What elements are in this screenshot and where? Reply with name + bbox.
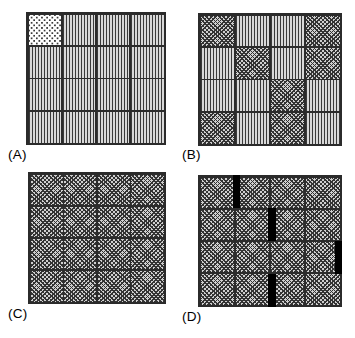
panel-b-grid — [198, 13, 342, 146]
panel-d-cell-r1c4 — [306, 178, 340, 209]
panel-b-cell-r2c2 — [236, 48, 270, 79]
panel-a-cell-r1c2 — [63, 15, 96, 46]
panel-b-cell-r4c4 — [306, 113, 340, 144]
panel-b-cell-r2c4 — [306, 48, 340, 79]
panel-c-cell-r2c1 — [31, 207, 63, 238]
panel-c-cell-r4c2 — [64, 271, 96, 302]
panel-c-cell-r3c1 — [31, 239, 63, 270]
panel-a-cell-r2c1 — [29, 47, 62, 78]
panel-d-cell-r3c1 — [201, 242, 235, 273]
panel-b-cell-r4c2 — [236, 113, 270, 144]
panel-b-cell-r1c3 — [271, 16, 305, 47]
panel-a-cell-r2c4 — [131, 47, 164, 78]
panel-b-cell-r2c1 — [201, 48, 235, 79]
panel-d-cell-r1c3 — [271, 178, 305, 209]
panel-b-cell-r4c1 — [201, 113, 235, 144]
panel-b — [198, 13, 342, 146]
panel-d-cell-r4c2 — [236, 274, 270, 305]
panel-a — [26, 12, 166, 145]
figure-panels-container: (A)(B)(C)(D) — [0, 0, 355, 338]
panel-a-cell-r3c4 — [131, 79, 164, 110]
panel-a-cell-r4c2 — [63, 112, 96, 143]
panel-b-label: (B) — [182, 147, 201, 162]
panel-d-cell-r1c2 — [236, 178, 270, 209]
panel-c-cell-r4c4 — [131, 271, 163, 302]
panel-a-cell-r4c3 — [97, 112, 130, 143]
panel-a-cell-r2c2 — [63, 47, 96, 78]
panel-c-cell-r1c1 — [31, 175, 63, 206]
panel-c-cell-r4c3 — [98, 271, 130, 302]
panel-d-defect-bar-3 — [335, 241, 342, 274]
panel-d — [198, 175, 342, 307]
panel-b-cell-r3c2 — [236, 80, 270, 111]
panel-b-cell-r4c3 — [271, 113, 305, 144]
panel-c-cell-r3c2 — [64, 239, 96, 270]
panel-a-cell-r4c4 — [131, 112, 164, 143]
panel-c-cell-r2c3 — [98, 207, 130, 238]
panel-d-cell-r2c4 — [306, 210, 340, 241]
panel-c-cell-r3c4 — [131, 239, 163, 270]
panel-b-cell-r1c4 — [306, 16, 340, 47]
panel-a-cell-r3c1 — [29, 79, 62, 110]
panel-b-cell-r3c1 — [201, 80, 235, 111]
panel-b-cell-r1c1 — [201, 16, 235, 47]
panel-a-cell-r3c2 — [63, 79, 96, 110]
panel-c-label: (C) — [8, 306, 27, 321]
panel-b-cell-r2c3 — [271, 48, 305, 79]
panel-a-cell-r2c3 — [97, 47, 130, 78]
panel-c-cell-r1c3 — [98, 175, 130, 206]
panel-d-defect-bar-2 — [268, 208, 276, 241]
panel-c — [28, 172, 166, 304]
panel-a-cell-r4c1 — [29, 112, 62, 143]
panel-d-label: (D) — [182, 309, 201, 324]
panel-d-defect-bar-4 — [268, 274, 276, 307]
panel-a-label: (A) — [8, 147, 27, 162]
panel-d-cell-r4c3 — [271, 274, 305, 305]
panel-c-cell-r4c1 — [31, 271, 63, 302]
panel-c-grid — [28, 172, 166, 304]
panel-a-cell-r1c4 — [131, 15, 164, 46]
panel-d-cell-r2c3 — [271, 210, 305, 241]
panel-d-cell-r3c3 — [271, 242, 305, 273]
panel-b-cell-r1c2 — [236, 16, 270, 47]
panel-d-cell-r4c1 — [201, 274, 235, 305]
panel-c-cell-r1c4 — [131, 175, 163, 206]
panel-c-cell-r2c2 — [64, 207, 96, 238]
panel-b-cell-r3c4 — [306, 80, 340, 111]
panel-a-grid — [26, 12, 166, 145]
panel-a-cell-r1c1 — [29, 15, 62, 46]
panel-a-cell-r1c3 — [97, 15, 130, 46]
panel-d-cell-r2c1 — [201, 210, 235, 241]
panel-c-cell-r1c2 — [64, 175, 96, 206]
panel-c-cell-r2c4 — [131, 207, 163, 238]
panel-d-cell-r1c1 — [201, 178, 235, 209]
panel-c-cell-r3c3 — [98, 239, 130, 270]
panel-d-cell-r2c2 — [236, 210, 270, 241]
panel-d-cell-r4c4 — [306, 274, 340, 305]
panel-d-cell-r3c2 — [236, 242, 270, 273]
panel-a-cell-r3c3 — [97, 79, 130, 110]
panel-b-cell-r3c3 — [271, 80, 305, 111]
panel-d-defect-bar-1 — [233, 175, 241, 208]
